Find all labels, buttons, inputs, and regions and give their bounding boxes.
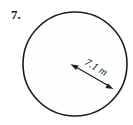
circle-shape <box>23 12 127 116</box>
problem-number: 7. <box>11 7 21 22</box>
geometry-figure: 7. 7.1 m <box>0 0 133 125</box>
circle-diagram: 7. 7.1 m <box>0 0 133 125</box>
